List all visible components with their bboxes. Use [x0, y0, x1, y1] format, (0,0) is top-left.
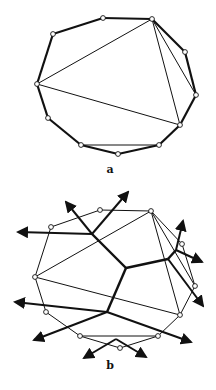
polygon-edge — [158, 315, 180, 336]
triangulation-diagram — [0, 0, 216, 390]
vertex-point — [193, 284, 198, 289]
figure-a-polygon-triangulation — [35, 16, 199, 157]
polygon-edge — [81, 145, 118, 154]
diagonal — [151, 211, 195, 286]
vertex-point — [178, 313, 183, 318]
arrow — [168, 259, 203, 306]
polygon-edge — [100, 210, 151, 211]
polygon-edge — [35, 277, 46, 312]
polygon-edge — [80, 336, 120, 348]
polygon-edge — [118, 145, 159, 154]
arrow — [66, 202, 92, 234]
dual-edge — [126, 259, 168, 268]
figure-a-label: a — [100, 163, 120, 176]
diagonal — [152, 19, 196, 95]
diagonal — [37, 19, 152, 84]
vertex-point — [49, 225, 54, 230]
vertex-point — [46, 116, 51, 121]
vertex-point — [101, 16, 106, 21]
vertex-point — [79, 143, 84, 148]
vertex-point — [194, 93, 199, 98]
vertex-point — [98, 208, 103, 213]
vertex-point — [157, 143, 162, 148]
vertex-point — [180, 242, 185, 247]
arrow — [15, 302, 107, 312]
polygon-edge — [185, 52, 196, 95]
polygon-edge — [180, 95, 196, 125]
vertex-point — [150, 17, 155, 22]
vertex-point — [178, 123, 183, 128]
diagonal — [37, 84, 180, 125]
vertex-point — [51, 32, 56, 37]
vertex-point — [35, 82, 40, 87]
vertex-point — [118, 346, 123, 351]
diagonal — [152, 19, 180, 125]
polygon-edge — [120, 336, 158, 348]
arrow — [18, 232, 92, 234]
polygon-edge — [53, 18, 103, 34]
vertex-point — [149, 209, 154, 214]
vertex-point — [44, 310, 49, 315]
vertex-point — [116, 152, 121, 157]
figure-b-dual-graph-with-arrows — [15, 192, 203, 358]
polygon-edge — [159, 125, 180, 145]
polygon-edge — [48, 118, 81, 145]
figure-b-label: b — [100, 359, 120, 372]
vertex-point — [156, 334, 161, 339]
dual-edge — [168, 250, 176, 259]
vertex-point — [33, 275, 38, 280]
dual-edge — [107, 268, 126, 312]
dual-edge — [92, 234, 126, 268]
vertex-point — [78, 334, 83, 339]
polygon-edge — [103, 18, 152, 19]
polygon-edge — [180, 286, 195, 315]
polygon-edge — [37, 84, 48, 118]
vertex-point — [183, 50, 188, 55]
